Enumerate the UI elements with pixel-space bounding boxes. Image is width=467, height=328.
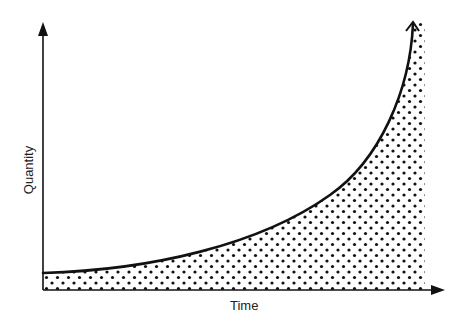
exponential-growth-diagram xyxy=(0,0,467,328)
y-axis xyxy=(38,22,48,290)
area-fill xyxy=(43,20,425,290)
x-axis-arrow-icon xyxy=(431,285,445,295)
y-axis-label: Quantity xyxy=(21,146,36,194)
x-axis-label: Time xyxy=(230,298,258,313)
y-axis-arrow-icon xyxy=(38,22,48,36)
